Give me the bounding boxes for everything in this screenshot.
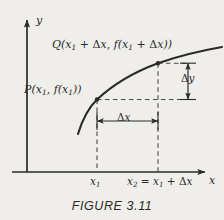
q-var: x: [65, 38, 71, 51]
x2-delta: Δ: [179, 175, 187, 187]
q-plus: +: [76, 38, 92, 51]
q-comma: ,: [107, 38, 114, 51]
q-name: Q: [52, 38, 61, 51]
figure-container: Q(x1 + Δx, f(x1 + Δx)) P(x1, f(x1)) Δx Δ…: [0, 0, 224, 220]
q-close: )): [163, 38, 172, 51]
x2-var2: x: [153, 175, 159, 187]
point-q-marker: [156, 61, 160, 65]
figure-graphic: [0, 0, 224, 220]
tick-label-x1: x1: [90, 176, 100, 187]
p-comma: ,: [47, 83, 54, 96]
p-func-sub: 1: [68, 88, 73, 97]
x2-sub2: 1: [159, 180, 164, 189]
x1-sub: 1: [96, 180, 101, 189]
x2-delta-var: x: [187, 175, 193, 187]
p-sub: 1: [42, 88, 47, 97]
dx-var: x: [125, 111, 131, 123]
label-point-q: Q(x1 + Δx, f(x1 + Δx)): [52, 39, 172, 50]
figure-caption: FIGURE 3.11: [0, 199, 224, 213]
point-p-marker: [95, 97, 99, 101]
label-delta-y: Δy: [181, 73, 195, 84]
p-var: x: [36, 83, 42, 96]
x2-equals: =: [137, 175, 152, 187]
x2-sub: 2: [133, 180, 138, 189]
p-close: )): [73, 83, 82, 96]
label-delta-x: Δx: [117, 112, 131, 123]
dy-var: y: [189, 72, 195, 84]
tick-label-x2: x2 = x1 + Δx: [127, 176, 192, 187]
q-func-plus: +: [133, 38, 149, 51]
label-point-p: P(x1, f(x1)): [24, 84, 82, 95]
y-axis-label: y: [36, 15, 42, 26]
x2-plus: +: [163, 175, 178, 187]
q-func-sub: 1: [128, 43, 133, 52]
dy-delta: Δ: [181, 72, 189, 84]
x-axis-label: x: [209, 175, 215, 186]
q-sub: 1: [72, 43, 77, 52]
dx-delta: Δ: [117, 111, 125, 123]
